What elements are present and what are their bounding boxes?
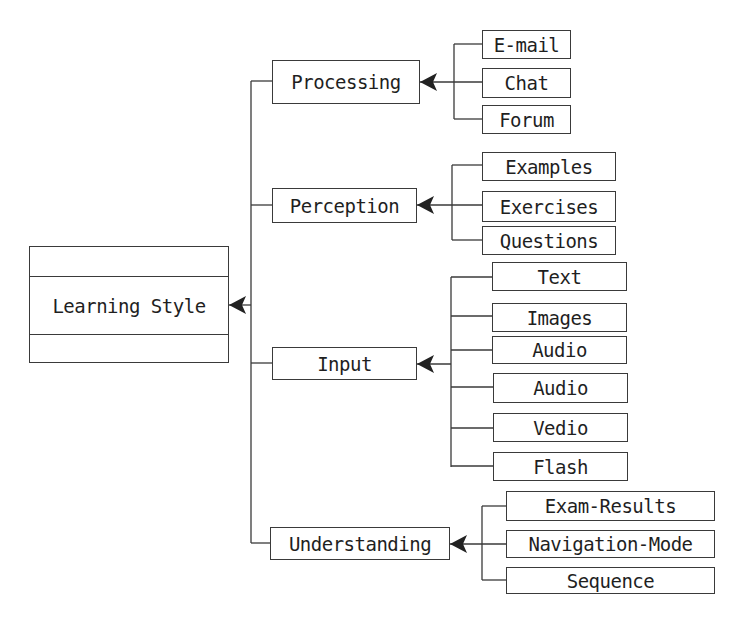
leaf-questions: Questions (482, 226, 616, 255)
leaf-text: Text (492, 262, 627, 291)
root-node: Learning Style (29, 246, 229, 363)
leaf-examples: Examples (482, 152, 616, 181)
leaf-email: E-mail (482, 30, 571, 59)
leaf-forum: Forum (482, 105, 571, 134)
root-label: Learning Style (30, 276, 228, 335)
root-bottom-section (30, 335, 228, 364)
learning-style-diagram: Learning Style Processing Perception Inp… (0, 0, 747, 625)
category-input: Input (272, 347, 417, 380)
category-understanding: Understanding (270, 527, 450, 560)
leaf-exercises: Exercises (482, 191, 616, 222)
leaf-chat: Chat (482, 68, 571, 98)
leaf-audio-1: Audio (492, 336, 627, 364)
leaf-vedio: Vedio (493, 413, 628, 442)
leaf-flash: Flash (493, 452, 628, 481)
leaf-sequence: Sequence (506, 567, 715, 594)
leaf-navigation-mode: Navigation-Mode (506, 530, 715, 558)
leaf-images: Images (492, 303, 627, 332)
category-processing: Processing (272, 60, 420, 104)
leaf-audio-2: Audio (493, 373, 628, 403)
category-perception: Perception (272, 188, 417, 223)
root-top-section (30, 247, 228, 276)
leaf-exam-results: Exam-Results (506, 491, 715, 521)
